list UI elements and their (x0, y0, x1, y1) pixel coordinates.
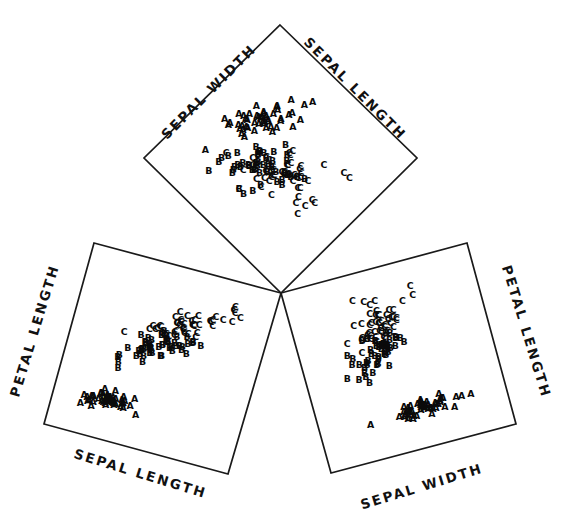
figure-root: AAAAAAAAAAAAAAAAAAAAAAAAAAAAAAAAAAAAAAAA… (0, 0, 564, 515)
data-point-A: A (451, 401, 459, 412)
data-point-B: B (386, 360, 393, 371)
data-point-C: C (220, 314, 227, 325)
data-point-A: A (458, 390, 466, 401)
data-point-A: A (202, 144, 210, 155)
data-point-B: B (375, 353, 382, 364)
data-point-B: B (145, 341, 152, 352)
data-point-B: B (382, 343, 389, 354)
data-point-B: B (344, 373, 351, 384)
data-point-B: B (366, 377, 373, 388)
data-point-C: C (263, 151, 270, 162)
data-point-C: C (268, 189, 275, 200)
data-point-C: C (292, 197, 299, 208)
data-point-C: C (297, 182, 304, 193)
data-point-C: C (223, 147, 230, 158)
data-point-A: A (120, 402, 128, 413)
data-point-B: B (400, 336, 407, 347)
data-point-C: C (409, 289, 416, 300)
panel-left-xlabel: SEPAL LENGTH (72, 445, 209, 501)
data-point-A: A (239, 124, 247, 135)
data-point-C: C (304, 175, 311, 186)
panel-left-ylabel: PETAL LENGTH (6, 262, 62, 399)
data-point-A: A (226, 117, 234, 128)
data-point-A: A (297, 114, 305, 125)
data-point-B: B (249, 185, 256, 196)
panel-top-ylabel: SEPAL LENGTH (301, 34, 410, 143)
panel-right-ylabel: PETAL LENGTH (499, 263, 555, 400)
data-point-C: C (181, 325, 188, 336)
data-point-C: C (384, 325, 391, 336)
data-point-A: A (260, 108, 268, 119)
panel-top-frame (144, 25, 417, 293)
data-point-C: C (302, 200, 309, 211)
data-point-A: A (287, 94, 295, 105)
data-point-C: C (192, 331, 199, 342)
data-point-A: A (467, 388, 475, 399)
data-point-C: C (350, 320, 357, 331)
data-point-A: A (289, 107, 297, 118)
data-point-A: A (274, 100, 282, 111)
data-point-B: B (115, 362, 122, 373)
data-point-B: B (158, 350, 165, 361)
data-point-C: C (191, 314, 198, 325)
data-point-C: C (249, 152, 256, 163)
data-point-B: B (205, 165, 212, 176)
data-point-A: A (301, 99, 309, 110)
data-point-C: C (393, 314, 400, 325)
data-point-C: C (229, 316, 236, 327)
data-point-C: C (349, 295, 356, 306)
data-point-C: C (311, 197, 318, 208)
data-point-C: C (237, 312, 244, 323)
data-point-A: A (408, 406, 416, 417)
data-point-C: C (294, 208, 301, 219)
data-point-A: A (277, 113, 285, 124)
data-point-C: C (320, 159, 327, 170)
data-point-C: C (359, 347, 366, 358)
data-point-C: C (344, 338, 351, 349)
data-point-A: A (431, 397, 439, 408)
panel-right-xlabel: SEPAL WIDTH (358, 460, 484, 512)
rotated-scatterplot-triplet: AAAAAAAAAAAAAAAAAAAAAAAAAAAAAAAAAAAAAAAA… (0, 0, 564, 515)
panel-left: AAAAAAAAAAAAAAAAAAAAAAAAAAAAAAAAAAAAAAAA… (6, 243, 281, 501)
data-point-C: C (360, 296, 367, 307)
data-point-C: C (269, 169, 276, 180)
data-point-A: A (101, 397, 109, 408)
data-point-A: A (309, 96, 317, 107)
panel-right-frame (281, 243, 516, 473)
data-point-C: C (358, 334, 365, 345)
data-point-C: C (399, 295, 406, 306)
data-point-B: B (166, 342, 173, 353)
data-point-B: B (355, 374, 362, 385)
data-point-C: C (286, 147, 293, 158)
data-point-C: C (358, 318, 365, 329)
data-point-C: C (240, 164, 247, 175)
data-point-C: C (346, 172, 353, 183)
data-point-B: B (392, 332, 399, 343)
data-point-A: A (400, 406, 408, 417)
data-point-B: B (349, 353, 356, 364)
data-point-C: C (285, 168, 292, 179)
data-point-A: A (131, 393, 139, 404)
data-point-C: C (158, 321, 165, 332)
data-point-A: A (90, 390, 98, 401)
data-point-A: A (417, 404, 425, 415)
panel-right: AAAAAAAAAAAAAAAAAAAAAAAAAAAAAAAAAAAAAAAA… (281, 243, 555, 512)
data-point-A: A (112, 398, 120, 409)
data-point-C: C (251, 163, 258, 174)
data-point-C: C (236, 183, 243, 194)
data-point-B: B (124, 342, 131, 353)
data-point-B: B (215, 156, 222, 167)
data-point-C: C (258, 181, 265, 192)
data-point-B: B (279, 179, 286, 190)
data-point-A: A (367, 419, 375, 430)
data-point-C: C (366, 319, 373, 330)
data-point-C: C (378, 326, 385, 337)
panel-top: AAAAAAAAAAAAAAAAAAAAAAAAAAAAAAAAAAAAAAAA… (144, 25, 417, 293)
data-point-C: C (121, 326, 128, 337)
data-point-B: B (184, 338, 191, 349)
panel-right-points: AAAAAAAAAAAAAAAAAAAAAAAAAAAAAAAAAAAAAAAA… (344, 280, 475, 430)
data-point-C: C (209, 320, 216, 331)
data-point-C: C (296, 163, 303, 174)
data-point-B: B (368, 348, 375, 359)
data-point-C: C (279, 166, 286, 177)
